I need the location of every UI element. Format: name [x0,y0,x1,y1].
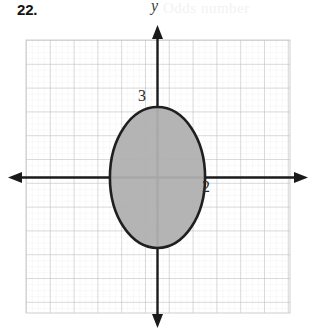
coordinate-plane-figure [0,0,323,334]
y-intercept-label: 3 [138,88,146,104]
y-axis-label: y [151,0,158,14]
problem-number-label: 22. [17,2,37,17]
x-intercept-label: 2 [202,179,210,195]
ellipse-shape [110,107,205,248]
ellipse-region [110,107,205,248]
background-ghost-text: Odds number [163,1,250,16]
